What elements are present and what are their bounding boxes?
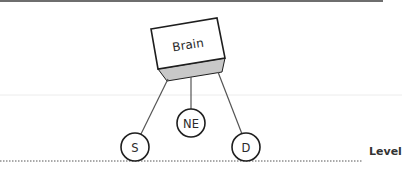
edge-brain-d: [218, 72, 242, 134]
top-rule: [0, 0, 383, 2]
node-s: S: [121, 133, 149, 161]
diagram-svg: Brain S NE D: [0, 0, 402, 173]
level-label: Level: [369, 145, 402, 158]
node-d-label: D: [242, 141, 251, 155]
node-ne-label: NE: [183, 117, 199, 131]
node-s-label: S: [131, 141, 138, 155]
edge-brain-s: [141, 79, 168, 134]
node-ne: NE: [177, 109, 205, 137]
node-d: D: [232, 133, 260, 161]
diagram-canvas: Brain S NE D Level: [0, 0, 402, 173]
